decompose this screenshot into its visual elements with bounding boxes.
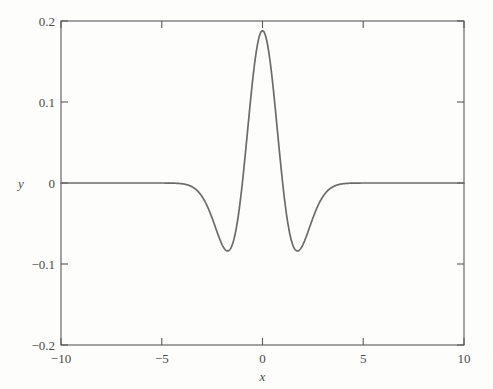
plot-figure: 0.2 0.1 0 −0.1 −0.2 −10 −5 0 5 10 x y <box>0 0 493 389</box>
y-tick-label-0: 0.2 <box>10 15 55 28</box>
x-tick-label-0: −10 <box>51 352 71 365</box>
plot-canvas <box>0 0 493 389</box>
y-tick-label-3: −0.1 <box>10 258 55 271</box>
y-tick-label-4: −0.2 <box>10 339 55 352</box>
x-tick-label-1: −5 <box>155 352 169 365</box>
data-curve-mexican-hat-wavelet <box>61 31 464 251</box>
y-axis-label: y <box>18 177 24 190</box>
y-tick-label-2: 0 <box>10 177 55 190</box>
x-axis-label: x <box>260 370 266 383</box>
x-tick-label-2: 0 <box>259 352 266 365</box>
y-tick-label-1: 0.1 <box>10 96 55 109</box>
chart-page: 0.2 0.1 0 −0.1 −0.2 −10 −5 0 5 10 x y <box>0 0 493 389</box>
x-tick-label-3: 5 <box>360 352 367 365</box>
x-tick-label-4: 10 <box>458 352 471 365</box>
